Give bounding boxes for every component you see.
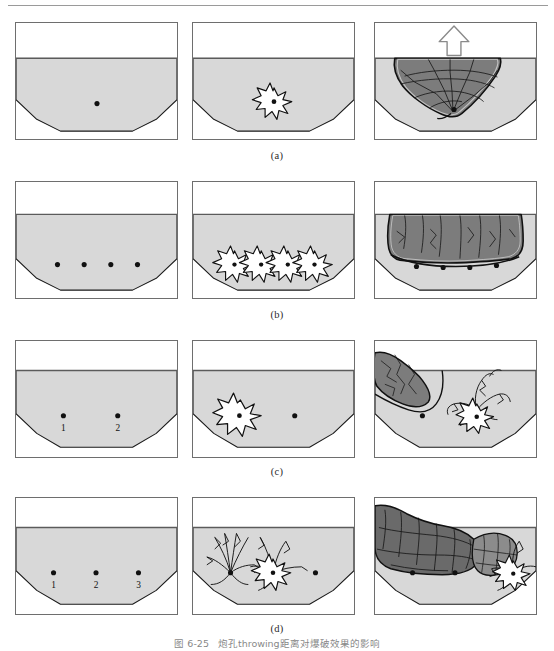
charge-label-1: 1 — [51, 580, 56, 590]
panel-a3-fragmentation — [374, 22, 537, 140]
charge-label-3: 3 — [136, 580, 141, 590]
broken-rock-zone — [388, 214, 523, 266]
panel-a1-charge-placement — [15, 22, 178, 140]
figure-caption: 图 6-25炮孔throwing距离对爆破效果的影响 — [0, 636, 554, 650]
uplift-arrow-icon — [439, 26, 469, 55]
sublabel-c: (c) — [0, 466, 554, 477]
panel-c2-detonation — [192, 340, 355, 458]
panel-b2-detonation — [192, 181, 355, 299]
charge-label-2: 2 — [94, 580, 99, 590]
sublabel-d: (d) — [0, 623, 554, 634]
panel-a2-detonation — [192, 22, 355, 140]
panel-b3-fragmentation — [374, 181, 537, 299]
charge-label-2: 2 — [115, 423, 120, 433]
panel-d3-fragmentation — [374, 497, 537, 615]
broken-rock-zone-dark — [375, 505, 480, 574]
figure-page: (a) — [0, 0, 554, 651]
sublabel-b: (b) — [0, 309, 554, 320]
panel-b1-charge-placement — [15, 181, 178, 299]
panel-d2-detonation — [192, 497, 355, 615]
figure-caption-number: 图 6-25 — [174, 638, 209, 649]
sublabel-a: (a) — [0, 150, 554, 161]
figure-caption-text: 炮孔throwing距离对爆破效果的影响 — [218, 638, 380, 649]
panel-d1-charge-placement: 1 2 3 — [15, 497, 178, 615]
page-top-rule — [8, 5, 548, 6]
charge-label-1: 1 — [61, 423, 66, 433]
panel-c3-fragmentation — [374, 340, 537, 458]
panel-c1-charge-placement: 1 2 — [15, 340, 178, 458]
